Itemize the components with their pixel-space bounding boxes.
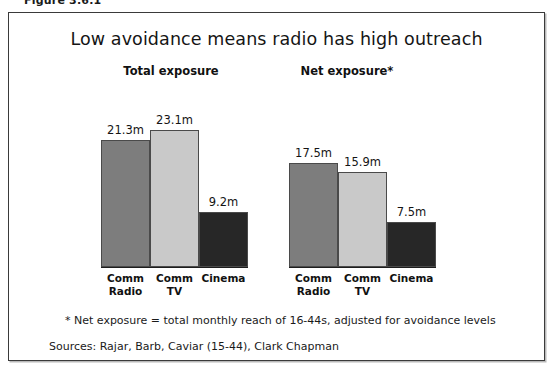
category-label: Cinema <box>192 272 255 285</box>
bar-group-total-exposure: 21.3mComm Radio23.1mComm TV9.2mCinema <box>101 68 251 268</box>
category-label: Cinema <box>380 272 443 285</box>
plot-area: Total exposure Net exposure* 21.3mComm R… <box>9 13 546 362</box>
bar <box>338 172 387 267</box>
bar <box>289 163 338 267</box>
bar-value-label: 15.9m <box>332 155 393 169</box>
bar-value-label: 23.1m <box>144 113 205 127</box>
baseline-rule <box>101 267 248 268</box>
footnote-net-exposure: * Net exposure = total monthly reach of … <box>65 314 496 327</box>
bar-value-label: 7.5m <box>381 205 442 219</box>
chart-frame: Low avoidance means radio has high outre… <box>8 12 545 361</box>
bar <box>101 140 150 267</box>
bar <box>199 212 248 267</box>
baseline-rule <box>289 267 436 268</box>
bar <box>150 130 199 267</box>
bar-group-net-exposure: 17.5mComm Radio15.9mComm TV7.5mCinema <box>289 68 439 268</box>
figure-caption: Figure 3.6.1 <box>24 0 101 7</box>
sources-line: Sources: Rajar, Barb, Caviar (15-44), Cl… <box>49 340 339 353</box>
bar <box>387 222 436 267</box>
bar-value-label: 9.2m <box>193 195 254 209</box>
